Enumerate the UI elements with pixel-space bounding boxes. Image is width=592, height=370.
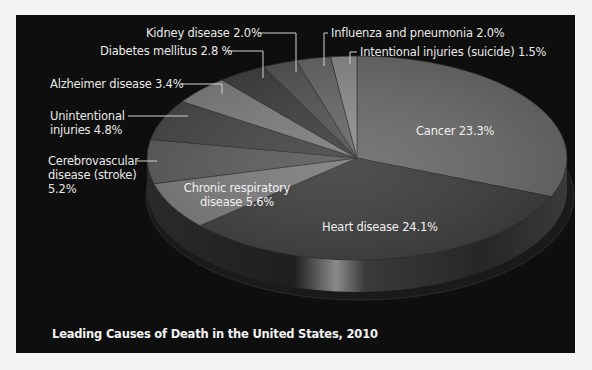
label-cerebro-line1: Cerebrovascular xyxy=(48,154,139,168)
chart-title: Leading Causes of Death in the United St… xyxy=(52,327,378,341)
label-chronic-line1: Chronic respiratory xyxy=(172,181,302,195)
label-unintentional: Unintentional injuries 4.8% xyxy=(50,109,125,137)
label-chronic-respiratory: Chronic respiratory disease 5.6% xyxy=(172,181,302,209)
label-heart: Heart disease 24.1% xyxy=(322,220,438,234)
label-cerebro-line2: disease (stroke) xyxy=(48,168,139,182)
label-intentional: Intentional injuries (suicide) 1.5% xyxy=(360,45,546,59)
label-kidney: Kidney disease 2.0% xyxy=(146,26,262,40)
label-unintentional-line1: Unintentional xyxy=(50,109,125,123)
label-alzheimer: Alzheimer disease 3.4% xyxy=(50,77,183,91)
label-cancer: Cancer 23.3% xyxy=(416,124,494,138)
label-chronic-line2: disease 5.6% xyxy=(172,195,302,209)
label-diabetes: Diabetes mellitus 2.8 % xyxy=(100,44,232,58)
label-influenza: Influenza and pneumonia 2.0% xyxy=(331,26,505,40)
label-cerebro-line3: 5.2% xyxy=(48,182,139,196)
label-unintentional-line2: injuries 4.8% xyxy=(50,123,125,137)
label-cerebrovascular: Cerebrovascular disease (stroke) 5.2% xyxy=(48,154,139,196)
